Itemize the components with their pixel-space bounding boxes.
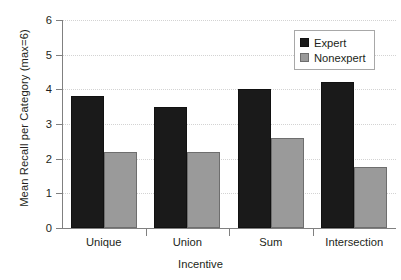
y-tick-label: 2: [36, 153, 52, 165]
bar-intersection-nonexpert: [354, 167, 387, 228]
bar-union-expert: [154, 107, 187, 228]
legend-item-expert: Expert: [300, 35, 366, 50]
bar-sum-nonexpert: [271, 138, 304, 228]
bar-unique-expert: [71, 96, 104, 228]
bar-unique-nonexpert: [104, 152, 137, 228]
y-tick-label: 3: [36, 118, 52, 130]
bar-sum-expert: [238, 89, 271, 228]
x-tick-mark: [229, 228, 230, 236]
y-tick-label: 6: [36, 14, 52, 26]
legend: Expert Nonexpert: [294, 30, 375, 70]
x-tick-label-unique: Unique: [86, 236, 121, 248]
y-tick-label: 1: [36, 187, 52, 199]
y-tick-label: 5: [36, 49, 52, 61]
y-tick-label: 0: [36, 222, 52, 234]
legend-item-nonexpert: Nonexpert: [300, 50, 366, 65]
y-axis-title: Mean Recall per Category (max=6): [18, 0, 30, 238]
x-axis-title: Incentive: [0, 258, 401, 270]
legend-label-nonexpert: Nonexpert: [314, 52, 366, 64]
gray-square-swatch-icon: [300, 53, 309, 62]
x-tick-label-union: Union: [173, 236, 202, 248]
bar-chart: Mean Recall per Category (max=6) 0123456…: [0, 0, 401, 280]
x-tick-label-sum: Sum: [259, 236, 282, 248]
x-tick-mark: [146, 228, 147, 236]
legend-label-expert: Expert: [314, 37, 346, 49]
x-tick-label-intersection: Intersection: [325, 236, 383, 248]
bar-union-nonexpert: [187, 152, 220, 228]
bar-intersection-expert: [321, 82, 354, 228]
black-square-swatch-icon: [300, 38, 309, 47]
y-tick-label: 4: [36, 83, 52, 95]
x-tick-mark: [313, 228, 314, 236]
